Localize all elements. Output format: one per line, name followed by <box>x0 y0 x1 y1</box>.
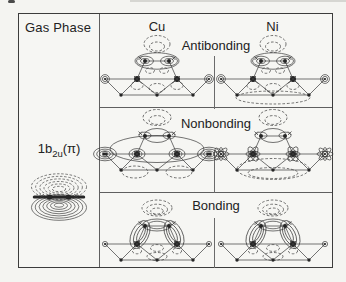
row-label-nonbonding: Nonbonding <box>100 116 332 131</box>
row-bonding: Bonding <box>100 193 332 267</box>
orbital-label-prefix: 1b <box>38 141 52 156</box>
column-header-cu: Cu <box>100 19 214 34</box>
orbital-label: 1b2u(π) <box>19 141 99 159</box>
gas-phase-label: Gas Phase <box>25 20 91 35</box>
orbital-label-suffix: (π) <box>63 141 81 156</box>
gas-phase-panel: Gas Phase 1b2u(π) <box>19 14 100 267</box>
cu-ni-divider-antibonding <box>214 56 215 109</box>
row-label-bonding: Bonding <box>100 198 332 213</box>
column-header-ni: Ni <box>214 19 331 34</box>
row-nonbonding: Nonbonding <box>100 108 332 192</box>
scan-artifact <box>8 0 15 3</box>
row-label-antibonding: Antibonding <box>100 38 332 53</box>
orbital-label-subscript: 2u <box>52 148 63 159</box>
cu-ni-divider-bonding <box>214 218 215 268</box>
cu-ni-divider-nonbonding <box>214 150 215 193</box>
scan-smudge <box>130 0 346 2</box>
gas-phase-contour-plot <box>21 159 97 237</box>
surface-panel: Cu Ni Antibonding Nonbonding Bonding <box>100 14 332 267</box>
figure-frame: Gas Phase 1b2u(π) Cu Ni Antibonding <box>18 13 333 268</box>
